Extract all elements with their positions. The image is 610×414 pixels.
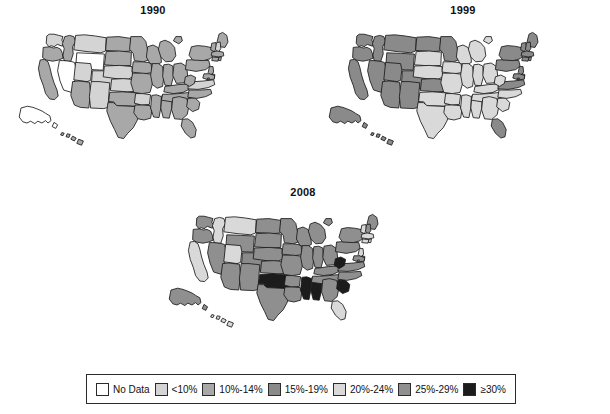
state-ct — [212, 57, 219, 61]
legend-swatch — [268, 383, 281, 396]
state-ar — [444, 94, 460, 105]
state-pa — [335, 241, 360, 253]
legend-entry: <10% — [155, 383, 198, 396]
state-nm — [399, 82, 419, 109]
state-nh — [215, 42, 220, 52]
state-il — [461, 64, 474, 89]
state-ma — [521, 51, 534, 57]
state-wa — [46, 34, 64, 47]
state-ms — [461, 95, 472, 118]
state-mo — [131, 73, 153, 93]
state-wa — [356, 34, 374, 47]
state-ut — [384, 62, 402, 81]
legend-label: No Data — [113, 384, 150, 395]
legend-swatch — [202, 383, 215, 396]
state-nm — [89, 82, 109, 109]
state-ca — [188, 241, 208, 281]
map-title-2008: 2008 — [158, 186, 448, 200]
state-nm — [239, 264, 259, 291]
state-nh — [525, 42, 530, 52]
legend-label: <10% — [172, 384, 198, 395]
legend-label: 10%-14% — [219, 384, 262, 395]
state-ct — [362, 239, 369, 243]
state-nc — [498, 89, 522, 98]
state-mn — [440, 37, 459, 62]
state-fl — [181, 119, 196, 138]
legend-entry: No Data — [96, 383, 150, 396]
state-mn — [130, 37, 149, 62]
state-ak — [19, 106, 57, 128]
state-in — [163, 64, 174, 86]
state-sd — [254, 233, 281, 248]
state-mi — [468, 37, 492, 62]
map-panel-2008: 2008 — [158, 186, 448, 364]
legend-label: ≥30% — [480, 384, 506, 395]
map-title-1990: 1990 — [8, 4, 298, 18]
choropleth-map-1999 — [318, 18, 608, 180]
legend-entry: 25%-29% — [398, 383, 458, 396]
legend-swatch — [96, 383, 109, 396]
state-az — [221, 263, 241, 290]
state-nd — [416, 37, 441, 52]
state-ia — [282, 244, 302, 256]
legend-label: 15%-19% — [285, 384, 328, 395]
state-mt — [224, 217, 256, 235]
state-ne — [253, 247, 282, 261]
state-ak — [169, 288, 207, 310]
state-ma — [211, 51, 224, 57]
state-ri — [218, 57, 221, 61]
state-fl — [491, 119, 506, 138]
state-ri — [368, 239, 371, 243]
state-or — [43, 47, 63, 61]
state-ms — [151, 95, 162, 118]
legend-entry: ≥30% — [463, 383, 506, 396]
state-mn — [280, 219, 299, 244]
state-in — [313, 246, 324, 268]
state-ga — [322, 279, 339, 302]
state-ri — [528, 57, 531, 61]
state-pa — [185, 59, 210, 71]
map-panel-1999: 1999 — [318, 4, 608, 182]
choropleth-map-2008 — [158, 200, 448, 362]
state-il — [151, 64, 164, 89]
state-ut — [224, 244, 242, 263]
map-title-1999: 1999 — [318, 4, 608, 18]
state-hi — [211, 315, 234, 328]
state-ia — [442, 62, 462, 74]
state-or — [193, 229, 213, 243]
state-nd — [256, 219, 281, 234]
state-mi — [158, 37, 182, 62]
state-mi — [308, 219, 332, 244]
legend-swatch — [333, 383, 346, 396]
legend-swatch — [398, 383, 411, 396]
state-ar — [284, 276, 300, 287]
legend-entry: 15%-19% — [268, 383, 328, 396]
state-hi — [61, 133, 84, 146]
state-az — [71, 81, 91, 108]
state-or — [353, 47, 373, 61]
state-dc — [357, 260, 359, 262]
state-wa — [196, 216, 214, 229]
obesity-trends-figure: 1990 1999 2008 No Data<10%10%-14%15%-19%… — [0, 0, 610, 414]
state-nd — [106, 37, 131, 52]
state-az — [381, 81, 401, 108]
state-sd — [104, 51, 131, 66]
state-ne — [103, 65, 132, 79]
state-ma — [361, 233, 374, 239]
state-fl — [331, 301, 346, 320]
state-in — [473, 64, 484, 86]
state-nc — [338, 271, 362, 280]
state-ga — [482, 97, 499, 120]
state-dc — [517, 78, 519, 80]
choropleth-map-1990 — [8, 18, 298, 180]
state-ak — [329, 106, 367, 128]
legend-label: 25%-29% — [415, 384, 458, 395]
legend-entry: 20%-24% — [333, 383, 393, 396]
state-ca — [38, 59, 58, 99]
legend-label: 20%-24% — [350, 384, 393, 395]
state-nc — [188, 89, 212, 98]
legend-entry: 10%-14% — [202, 383, 262, 396]
state-ca — [348, 59, 368, 99]
map-legend: No Data<10%10%-14%15%-19%20%-24%25%-29%≥… — [86, 374, 516, 404]
state-ia — [132, 62, 152, 74]
